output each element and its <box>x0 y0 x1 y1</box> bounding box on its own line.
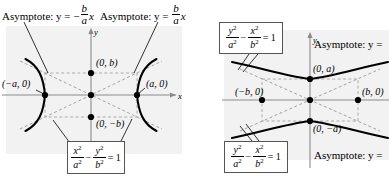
left-covertex-bottom-label: (0, −b) <box>96 119 124 129</box>
left-y-axis-label: y <box>94 28 98 37</box>
right-vertex-top-label: (0, a) <box>313 64 335 74</box>
left-asymptote-label-negative-text: Asymptote: y = − <box>2 10 80 22</box>
left-asymptote-label-positive: Asymptote: y = bax <box>100 3 186 26</box>
hyperbola-figure: Asymptote: y = −bax Asymptote: y = bax y… <box>0 0 389 177</box>
left-covertex-top-label: (0, b) <box>96 58 118 68</box>
right-equation-box-bottom: y2 a2 − x2 b2 = 1 <box>224 141 288 173</box>
left-vertex-positive-label: (a, 0) <box>146 79 168 89</box>
right-vertex-top-point <box>307 76 313 82</box>
right-top-equation-fraction-2: x2 b2 <box>248 24 260 51</box>
right-bottom-equation-equals: = 1 <box>267 151 282 162</box>
right-vertex-bottom-label: (0, −a) <box>313 124 341 134</box>
right-bottom-equation-fraction-2: x2 b2 <box>253 143 265 170</box>
right-center-point <box>307 97 313 103</box>
right-covertex-left-label: (−b, 0) <box>235 87 263 97</box>
left-vertex-negative-point <box>42 92 48 98</box>
right-asymptote-label-bottom: Asymptote: y = <box>314 150 383 161</box>
left-equation-fraction-1: x2 a2 <box>71 144 83 171</box>
left-asymptote-negative-fraction: ba <box>81 3 89 26</box>
right-covertex-right-label: (b, 0) <box>362 87 384 97</box>
left-covertex-top-point <box>88 70 94 76</box>
right-bottom-equation-fraction-1: y2 a2 <box>231 143 243 170</box>
left-equation-operator: − <box>85 152 93 163</box>
right-covertex-right-point <box>355 97 361 103</box>
left-equation-equals: = 1 <box>107 152 122 163</box>
left-asymptote-label-negative: Asymptote: y = −bax <box>2 3 94 26</box>
right-equation-box-top: y2 a2 − x2 b2 = 1 <box>219 22 283 54</box>
right-bottom-equation-operator: − <box>245 151 253 162</box>
right-top-equation-equals: = 1 <box>262 32 277 43</box>
right-top-equation-operator: − <box>240 32 248 43</box>
left-asymptote-positive-fraction: ba <box>172 3 180 26</box>
left-asymptote-negative-variable: x <box>89 10 94 22</box>
left-equation-fraction-2: y2 b2 <box>93 144 105 171</box>
left-panel-background <box>6 26 182 154</box>
left-equation-box: x2 a2 − y2 b2 = 1 <box>67 141 125 174</box>
left-asymptote-label-positive-text: Asymptote: y = <box>100 10 171 22</box>
right-y-axis-label: y <box>313 36 317 45</box>
right-covertex-left-point <box>259 97 265 103</box>
left-center-point <box>88 92 94 98</box>
left-covertex-bottom-point <box>88 114 94 120</box>
right-asymptote-label-top: Asymptote: y = <box>314 39 383 50</box>
left-asymptote-positive-variable: x <box>181 10 186 22</box>
right-top-equation-fraction-1: y2 a2 <box>226 24 238 51</box>
left-vertex-negative-label: (−a, 0) <box>2 79 30 89</box>
left-x-axis-label: x <box>178 92 182 101</box>
